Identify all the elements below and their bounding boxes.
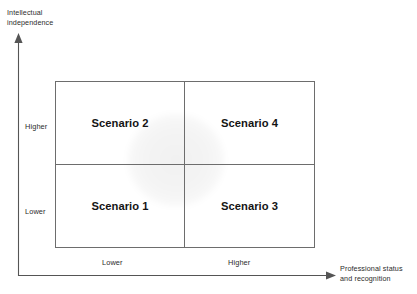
right-arrow-icon [326,271,336,279]
y-axis-title: Intellectual independence [7,8,97,27]
quadrant-top-left: Scenario 2 [56,82,185,165]
y-axis-tick-higher: Higher [25,122,47,131]
quadrant-matrix: Scenario 2 Scenario 4 Scenario 1 Scenari… [55,81,315,248]
quadrant-label: Scenario 2 [91,117,148,129]
quadrant-bottom-right: Scenario 3 [185,165,314,248]
x-axis-tick-lower: Lower [102,258,123,267]
quadrant-label: Scenario 4 [221,117,278,129]
diagram-canvas: Intellectual independence Professional s… [0,0,417,294]
x-axis-title: Professional status and recognition [340,264,416,283]
quadrant-top-right: Scenario 4 [185,82,314,165]
x-axis-tick-higher: Higher [228,258,250,267]
up-arrow-icon [14,33,22,43]
y-axis-tick-lower: Lower [25,207,46,216]
quadrant-label: Scenario 1 [91,200,148,212]
quadrant-bottom-left: Scenario 1 [56,165,185,248]
quadrant-label: Scenario 3 [221,200,278,212]
